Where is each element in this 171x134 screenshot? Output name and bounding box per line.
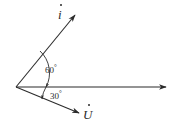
vector-current-i [16, 15, 75, 87]
vector-voltage-u [16, 87, 79, 113]
angle-label-60-value: 60 [45, 65, 54, 75]
angle-label-30: 30° [50, 90, 62, 101]
phasor-dot-icon [88, 104, 90, 106]
phasor-dot-icon [60, 4, 62, 6]
phasor-diagram-figure: 60° 30° i U [0, 0, 171, 134]
angle-label-30-value: 30 [50, 91, 59, 101]
phasor-label-voltage-text: U [83, 107, 92, 122]
angle-label-60: 60° [45, 64, 57, 75]
angle-arc-30 [42, 87, 46, 99]
phasor-label-current-text: i [58, 7, 62, 22]
phasor-label-current: i [58, 8, 62, 21]
phasor-label-voltage: U [83, 108, 92, 121]
degree-symbol-60: ° [54, 63, 57, 71]
degree-symbol-30: ° [59, 89, 62, 97]
